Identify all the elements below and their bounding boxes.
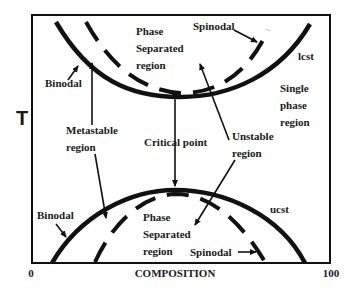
- lower-binodal-label: Binodal: [37, 209, 74, 221]
- lcst-label: lcst: [298, 50, 314, 62]
- single-phase-line2: phase: [280, 99, 307, 111]
- critical-point-label: Critical point: [144, 136, 208, 148]
- upper-phase-separated-line2: Separated: [136, 42, 184, 54]
- metastable-line1: Metastable: [66, 124, 118, 136]
- lower-phase-separated-line3: region: [143, 245, 173, 257]
- lower-spinodal-label: Spinodal: [190, 246, 232, 258]
- unstable-arrow-up: [200, 64, 229, 140]
- single-phase-line1: Single: [280, 82, 309, 94]
- metastable-line2: region: [66, 141, 96, 153]
- phase-diagram: T COMPOSITION 0 100 Phase Separated regi…: [0, 0, 350, 295]
- upper-binodal-label: Binodal: [45, 77, 82, 89]
- single-phase-line3: region: [280, 116, 310, 128]
- upper-phase-separated-line1: Phase: [136, 25, 164, 37]
- y-axis-label: T: [16, 107, 28, 129]
- lower-binodal-arrow: [56, 224, 66, 237]
- upper-phase-separated-line3: region: [136, 59, 166, 71]
- ucst-label: ucst: [270, 203, 289, 215]
- upper-spinodal-arrow: [234, 30, 257, 42]
- upper-spinodal-label: Spinodal: [193, 20, 235, 32]
- x-min-label: 0: [28, 267, 34, 279]
- metastable-arrow-down: [95, 154, 106, 218]
- lower-binodal-curve: [52, 190, 305, 263]
- unstable-line2: region: [232, 147, 262, 159]
- lower-phase-separated-line2: Separated: [143, 228, 191, 240]
- unstable-line1: Unstable: [232, 130, 274, 142]
- lower-phase-separated-line1: Phase: [143, 211, 171, 223]
- x-axis-label: COMPOSITION: [135, 267, 216, 279]
- x-max-label: 100: [323, 267, 340, 279]
